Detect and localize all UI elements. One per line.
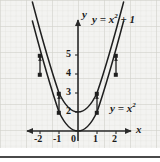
x-tick-label-neg2: -2 bbox=[34, 133, 42, 144]
label-lower-exponent: 2 bbox=[132, 101, 136, 109]
y-tick-label-4: 4 bbox=[66, 67, 71, 78]
y-tick-label-3: 3 bbox=[66, 86, 71, 97]
axis-label-x: x bbox=[136, 123, 142, 135]
graph-figure: y = x2 + 1 y = x2 y x -2 -1 0 1 2 5 4 3 … bbox=[0, 0, 160, 162]
bottom-white-strip bbox=[0, 148, 160, 156]
label-upper-tail: + 1 bbox=[118, 13, 135, 25]
axis-label-y: y bbox=[82, 8, 87, 20]
coordinate-plot bbox=[0, 0, 160, 162]
x-tick-label-1: 1 bbox=[93, 133, 98, 144]
y-tick-label-2: 2 bbox=[66, 105, 71, 116]
x-tick-label-0: 0 bbox=[71, 133, 76, 144]
x-tick-label-neg1: -1 bbox=[53, 133, 61, 144]
label-upper-base: y = x bbox=[92, 13, 114, 25]
label-lower-base: y = x bbox=[110, 102, 132, 114]
y-tick-label-5: 5 bbox=[66, 48, 71, 59]
label-curve-lower: y = x2 bbox=[110, 101, 136, 114]
bottom-page-edge bbox=[0, 158, 160, 162]
x-tick-label-2: 2 bbox=[112, 133, 117, 144]
label-curve-upper: y = x2 + 1 bbox=[92, 12, 135, 25]
